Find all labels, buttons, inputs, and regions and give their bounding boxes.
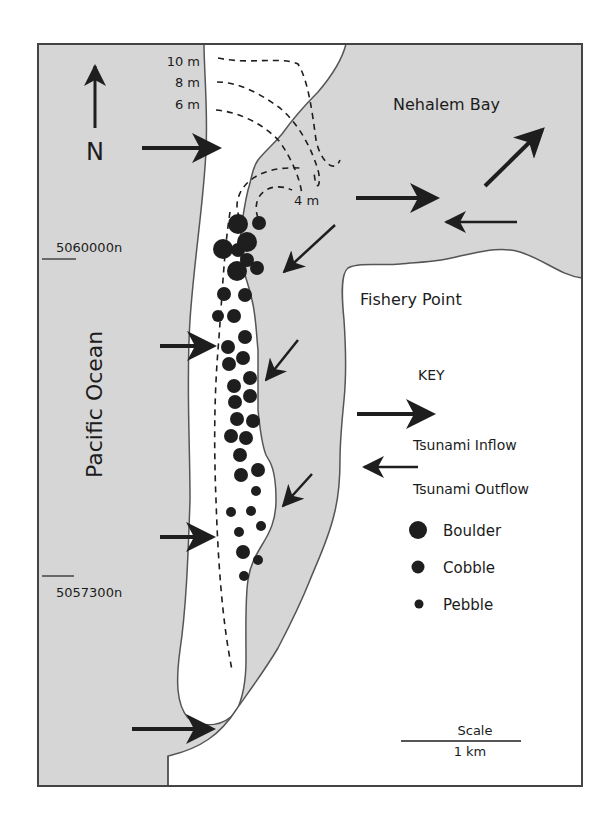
key-outflow-label: Tsunami Outflow [412,481,529,497]
northing-label-lower: 5057300n [56,585,122,600]
ocean-label: Pacific Ocean [82,331,107,478]
north-label: N [86,138,104,166]
contour-label-6m: 6 m [175,97,200,112]
key-pebble-icon [415,600,424,609]
contour-label-10m: 10 m [167,54,200,69]
key-boulder-icon [409,521,427,539]
key-inflow-label: Tsunami Inflow [412,437,517,453]
bay-label: Nehalem Bay [393,95,500,114]
key-pebble-label: Pebble [443,596,493,614]
key-boulder-label: Boulder [443,522,502,540]
contour-label-4m: 4 m [294,193,319,208]
scale-title: Scale [458,723,493,738]
scale-length: 1 km [454,744,487,759]
key-cobble-icon [412,561,425,574]
point-label: Fishery Point [360,290,462,309]
key-title: KEY [418,367,445,383]
key-cobble-label: Cobble [443,559,495,577]
northing-label-upper: 5060000n [56,240,122,255]
contour-label-8m: 8 m [175,75,200,90]
tsunami-deposit-map: N 10 m 8 m 6 m 4 m Nehalem Bay Fishery P… [0,0,609,824]
